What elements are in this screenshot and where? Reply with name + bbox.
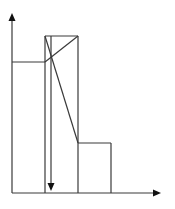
step-diagram (0, 0, 175, 209)
diagonal-up (45, 36, 78, 62)
diagonal-down (45, 36, 78, 143)
down-arrow-icon (48, 183, 55, 191)
x-axis-arrow-icon (153, 190, 161, 197)
y-axis-arrow-icon (9, 13, 16, 21)
